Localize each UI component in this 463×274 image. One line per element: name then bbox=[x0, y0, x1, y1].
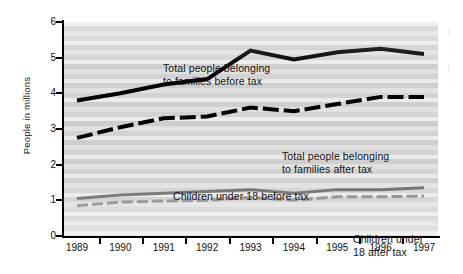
y-tick-mark-0 bbox=[56, 235, 63, 237]
annotation-total-after-tax: Total people belonging to families after… bbox=[282, 150, 389, 175]
scan-speckle bbox=[447, 26, 455, 88]
x-tick-mark-2 bbox=[185, 238, 187, 244]
y-tick-1: 1 bbox=[34, 195, 56, 205]
annotation-children-before-tax: Children under 18 before tax bbox=[173, 190, 309, 203]
y-axis-tick-labels: 6543210 bbox=[32, 0, 56, 274]
x-tick-1994: 1994 bbox=[271, 242, 317, 253]
x-tick-mark-1 bbox=[142, 238, 144, 244]
x-tick-mark-7 bbox=[402, 238, 404, 244]
y-tick-mark-5 bbox=[56, 57, 63, 59]
x-tick-mark-3 bbox=[229, 238, 231, 244]
x-tick-mark-4 bbox=[272, 238, 274, 244]
y-tick-mark-1 bbox=[56, 199, 63, 201]
x-tick-1991: 1991 bbox=[141, 242, 187, 253]
y-tick-3: 3 bbox=[34, 124, 56, 134]
x-tick-1993: 1993 bbox=[228, 242, 274, 253]
y-tick-0: 0 bbox=[34, 231, 56, 241]
y-tick-6: 6 bbox=[34, 17, 56, 27]
x-axis-line bbox=[62, 236, 440, 238]
chart-figure: People in millions 6543210 1989199019911… bbox=[0, 0, 463, 274]
y-tick-4: 4 bbox=[34, 88, 56, 98]
y-tick-mark-4 bbox=[56, 92, 63, 94]
y-axis-title: People in millions bbox=[21, 46, 32, 186]
x-tick-mark-5 bbox=[316, 238, 318, 244]
y-tick-5: 5 bbox=[34, 53, 56, 63]
y-tick-2: 2 bbox=[34, 160, 56, 170]
x-tick-1992: 1992 bbox=[184, 242, 230, 253]
plot-area: Total people belonging to families befor… bbox=[63, 22, 438, 236]
x-tick-1989: 1989 bbox=[54, 242, 100, 253]
y-tick-mark-3 bbox=[56, 128, 63, 130]
series-line-1 bbox=[77, 97, 424, 138]
series-canvas bbox=[63, 22, 438, 236]
annotation-total-before-tax: Total people belonging to families befor… bbox=[163, 62, 270, 87]
y-tick-mark-2 bbox=[56, 164, 63, 166]
x-tick-mark-6 bbox=[359, 238, 361, 244]
x-tick-mark-0 bbox=[99, 238, 101, 244]
x-tick-1990: 1990 bbox=[97, 242, 143, 253]
y-tick-mark-6 bbox=[56, 21, 63, 23]
